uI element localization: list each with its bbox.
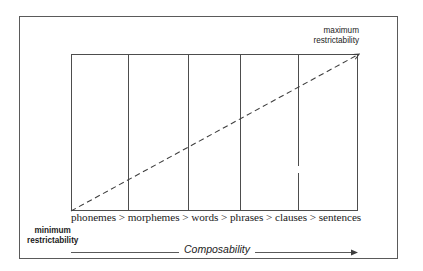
column-grid xyxy=(71,54,358,211)
grid-divider-2 xyxy=(188,54,189,211)
grid-divider-3 xyxy=(240,54,241,211)
linguistic-hierarchy-caption: phonemes > morphemes > words > phrases >… xyxy=(71,211,358,223)
min-restrictability-line-1: minimum xyxy=(27,226,78,236)
grid-divider-4 xyxy=(298,54,299,211)
composability-axis-label: Composability xyxy=(179,243,255,255)
max-restrictability-label: maximum restrictability xyxy=(314,26,360,46)
figure-container: maximum restrictability phonemes > morph… xyxy=(0,0,423,271)
max-restrictability-line-2: restrictability xyxy=(314,36,360,46)
grid-outline xyxy=(71,54,358,211)
max-restrictability-line-1: maximum xyxy=(314,26,360,36)
composability-axis: Composability xyxy=(71,243,363,259)
grid-divider-1 xyxy=(128,54,129,211)
